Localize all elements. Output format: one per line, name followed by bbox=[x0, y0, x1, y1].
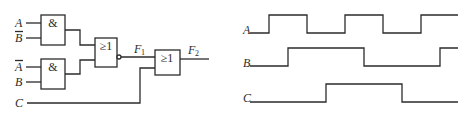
waveform-label-a: A bbox=[242, 23, 251, 37]
and-symbol-2: & bbox=[48, 60, 58, 74]
waveform-b bbox=[250, 48, 458, 66]
input-label-a: A bbox=[14, 16, 23, 30]
input-label-a-bar: A bbox=[14, 60, 23, 74]
circuit: A B A B C & & ≥1 F 1 ≥1 bbox=[14, 15, 209, 110]
or-symbol: ≥1 bbox=[161, 51, 174, 65]
input-label-c: C bbox=[15, 96, 24, 110]
logic-diagram: A B A B C & & ≥1 F 1 ≥1 bbox=[0, 0, 473, 116]
waveform-label-b: B bbox=[243, 56, 251, 70]
and-symbol-1: & bbox=[48, 16, 58, 30]
wire-and2-to-nor bbox=[65, 60, 95, 74]
f1-subscript: 1 bbox=[141, 48, 145, 57]
f2-subscript: 2 bbox=[195, 49, 199, 58]
waveform-a bbox=[250, 15, 458, 33]
input-label-b: B bbox=[15, 75, 23, 89]
waveform-label-c: C bbox=[243, 91, 252, 105]
waveform-c bbox=[250, 84, 458, 102]
nor-symbol: ≥1 bbox=[100, 39, 113, 53]
inversion-bubble bbox=[117, 55, 121, 59]
timing-diagram: A B C bbox=[242, 15, 458, 105]
input-label-b-bar: B bbox=[15, 31, 23, 45]
wire-and1-to-nor bbox=[65, 30, 95, 45]
